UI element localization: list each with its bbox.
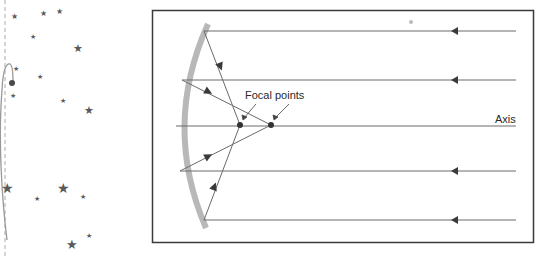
star-icon: ★	[66, 237, 78, 252]
star-icon: ★	[10, 92, 16, 99]
focal-point-1	[237, 122, 243, 128]
star-icon: ★	[30, 33, 36, 40]
star-icon: ★	[37, 73, 43, 80]
star-icon: ★	[11, 12, 18, 21]
focal-points-label: Focal points	[245, 89, 305, 101]
axis-label: Axis	[495, 113, 516, 125]
speck	[409, 20, 413, 24]
star-icon: ★	[60, 97, 66, 104]
focal-point-2	[268, 122, 274, 128]
star-icon: ★	[57, 180, 70, 196]
star-icon: ★	[56, 7, 63, 16]
star-field: ★ ★ ★ ★ ★ ★ ★ ★ ★ ★ ★ ★ ★ ★ ★ ★	[0, 0, 94, 256]
diagram-canvas: ★ ★ ★ ★ ★ ★ ★ ★ ★ ★ ★ ★ ★ ★ ★ ★	[0, 0, 537, 256]
star-icon: ★	[1, 180, 14, 196]
star-icon: ★	[84, 104, 94, 116]
star-icon: ★	[40, 9, 47, 18]
star-icon: ★	[80, 193, 86, 200]
star-icon: ★	[13, 65, 19, 72]
star-icon: ★	[86, 232, 92, 239]
star-icon: ★	[73, 42, 83, 54]
comet-trail	[0, 64, 13, 240]
star-icon: ★	[34, 195, 40, 202]
comet-dot	[9, 80, 15, 86]
